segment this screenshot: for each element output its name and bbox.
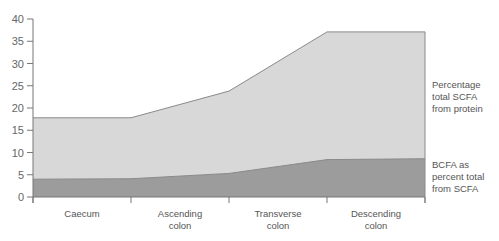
- y-tick-label: 20: [12, 102, 24, 114]
- plot-area: [33, 32, 425, 197]
- y-tick-label: 40: [12, 13, 24, 25]
- x-label-descending-colon: Descending colon: [331, 208, 421, 232]
- y-tick-label: 15: [12, 124, 24, 136]
- y-tick-label: 10: [12, 147, 24, 159]
- x-label-line: Caecum: [37, 208, 127, 220]
- legend-line: from SCFA: [432, 183, 499, 195]
- legend-line: percent total: [432, 171, 499, 183]
- y-tick-label: 35: [12, 35, 24, 47]
- x-label-line: Ascending: [135, 208, 225, 220]
- x-label-caecum: Caecum: [37, 208, 127, 220]
- legend-line: BCFA as: [432, 159, 499, 171]
- x-label-line: colon: [331, 220, 421, 232]
- x-label-line: colon: [233, 220, 323, 232]
- legend-line: from protein: [432, 103, 499, 115]
- legend-bcfa: BCFA as percent total from SCFA: [432, 159, 499, 195]
- y-tick-label: 30: [12, 58, 24, 70]
- x-label-line: Descending: [331, 208, 421, 220]
- area-chart: 0510152025303540: [0, 0, 499, 241]
- y-tick-label: 0: [18, 191, 24, 203]
- y-tick-label: 25: [12, 80, 24, 92]
- y-tick-label: 5: [18, 169, 24, 181]
- x-label-transverse-colon: Transverse colon: [233, 208, 323, 232]
- x-label-line: Transverse: [233, 208, 323, 220]
- legend-protein-scfa: Percentage total SCFA from protein: [432, 79, 499, 115]
- legend-line: total SCFA: [432, 91, 499, 103]
- x-label-ascending-colon: Ascending colon: [135, 208, 225, 232]
- legend-line: Percentage: [432, 79, 499, 91]
- x-label-line: colon: [135, 220, 225, 232]
